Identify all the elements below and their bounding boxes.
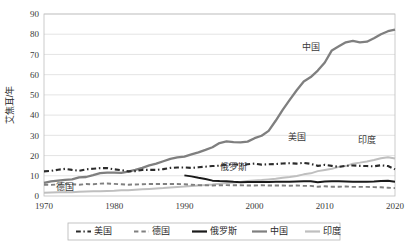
- y-axis-tick-label: 30: [30, 131, 40, 141]
- y-axis-tick-labels: 0102030405060708090: [30, 9, 40, 201]
- legend-label: 俄罗斯: [210, 225, 237, 236]
- series-inline-label: 美国: [288, 131, 306, 142]
- x-axis-tick-labels: 197019801990200020102020: [35, 201, 405, 211]
- y-axis-tick-label: 50: [30, 90, 40, 100]
- gridlines: [44, 14, 395, 176]
- series-inline-label: 德国: [56, 181, 74, 192]
- legend-label: 中国: [270, 225, 288, 236]
- series-line: [44, 30, 395, 183]
- x-axis-tick-label: 2000: [246, 201, 265, 211]
- legend-label: 德国: [152, 225, 170, 236]
- y-axis-title: 艾焦耳/年: [4, 86, 15, 125]
- series-inline-label: 印度: [358, 134, 376, 145]
- legend-label: 印度: [323, 225, 341, 236]
- legend-label: 美国: [94, 225, 112, 236]
- series-inline-label: 俄罗斯: [220, 161, 247, 172]
- chart-canvas: 0102030405060708090 19701980199020002010…: [0, 0, 407, 252]
- line-chart: 0102030405060708090 19701980199020002010…: [0, 0, 407, 252]
- y-axis-tick-label: 90: [30, 9, 40, 19]
- x-axis-tick-label: 2010: [316, 201, 335, 211]
- legend-items: 美国德国俄罗斯中国印度: [76, 225, 341, 236]
- x-axis-tick-label: 1970: [35, 201, 54, 211]
- x-axis-tick-label: 1980: [105, 201, 124, 211]
- y-axis-tick-label: 20: [30, 151, 40, 161]
- y-axis-tick-label: 10: [30, 171, 40, 181]
- series-inline-label: 中国: [302, 41, 320, 52]
- chart-legend: 美国德国俄罗斯中国印度: [68, 223, 341, 240]
- x-axis-tick-label: 2020: [386, 201, 405, 211]
- x-axis-tick-label: 1990: [175, 201, 194, 211]
- y-axis-tick-label: 80: [30, 29, 40, 39]
- y-axis-tick-label: 70: [30, 50, 40, 60]
- y-axis-tick-label: 60: [30, 70, 40, 80]
- y-axis-tick-label: 0: [35, 191, 40, 201]
- y-axis-tick-label: 40: [30, 110, 40, 120]
